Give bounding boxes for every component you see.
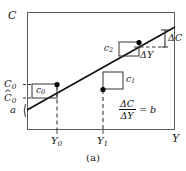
figure-caption: (a) xyxy=(0,153,186,163)
delta-y-symbol: Δ xyxy=(140,49,147,60)
x-tick-y1-base: Y xyxy=(97,135,104,146)
figure-graphics xyxy=(0,0,186,171)
delta-c-symbol: Δ xyxy=(168,32,175,43)
slope-numerator: ΔC xyxy=(118,99,136,109)
delta-c-label: ΔC xyxy=(168,33,182,43)
slope-result: b xyxy=(150,104,156,115)
delta-c-base: C xyxy=(175,32,182,43)
residual-c0-sub: 0 xyxy=(41,88,45,96)
y-value-c0-hat-base-wrap: ^C xyxy=(4,93,12,103)
slope-equals: = xyxy=(139,104,147,115)
residual-box-c1 xyxy=(103,72,123,89)
residual-label-c1: c1 xyxy=(126,75,135,85)
x-tick-y0-sub: 0 xyxy=(58,139,63,148)
data-point-c0 xyxy=(54,82,59,87)
slope-formula: ΔC ΔY = b xyxy=(118,99,156,121)
x-tick-y1-sub: 1 xyxy=(104,139,109,148)
residual-c1-sub: 1 xyxy=(131,77,135,85)
delta-y-label: ΔY xyxy=(140,50,153,60)
residual-label-c2: c2 xyxy=(104,44,113,54)
x-tick-label-y1: Y1 xyxy=(97,136,108,147)
x-tick-label-y0: Y0 xyxy=(51,136,62,147)
x-tick-y0-base: Y xyxy=(51,135,58,146)
intercept-bracket xyxy=(24,104,25,117)
y-value-label-c0-hat: ^C0 xyxy=(4,93,16,104)
residual-c2-sub: 2 xyxy=(109,46,113,54)
slope-fraction: ΔC ΔY xyxy=(118,99,136,121)
data-point-c1 xyxy=(100,87,105,92)
x-axis-label: Y xyxy=(172,133,179,144)
y-value-c0-sub: 0 xyxy=(12,82,17,91)
delta-y-base: Y xyxy=(147,49,153,60)
y-axis-label: C xyxy=(8,10,16,21)
residual-label-c0: c0 xyxy=(36,86,45,96)
data-point-c2 xyxy=(136,40,141,45)
figure-container: C Y C0 ^C0 a c0 c1 c2 ΔC ΔY Y0 Y1 ΔC Δ xyxy=(0,0,186,171)
circumflex-icon: ^ xyxy=(4,88,12,98)
slope-denominator: ΔY xyxy=(119,109,136,120)
intercept-label: a xyxy=(10,105,16,115)
